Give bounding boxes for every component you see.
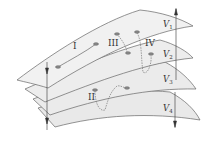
label-i: I	[73, 41, 77, 51]
label-ii: II	[88, 92, 96, 102]
manifold-diagram: I II III IV V1 V2 V3 V4	[0, 0, 210, 141]
label-iv: IV	[145, 38, 156, 48]
label-iii: III	[108, 38, 119, 48]
